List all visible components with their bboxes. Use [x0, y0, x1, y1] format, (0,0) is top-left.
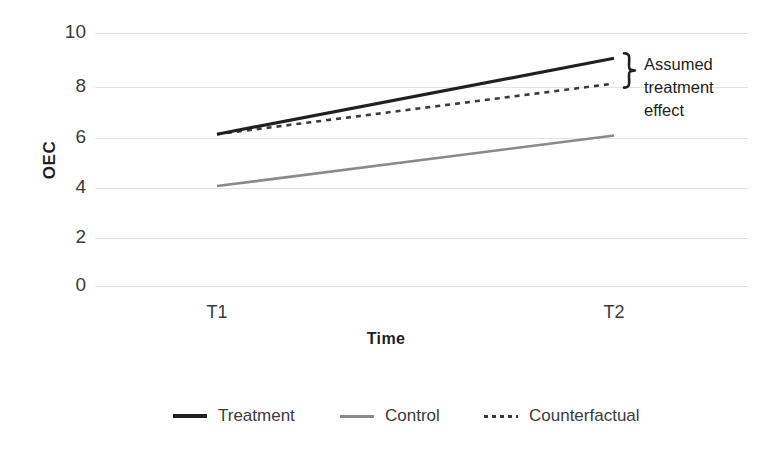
- annotation-line-2: treatment: [644, 76, 754, 99]
- annotation-assumed-treatment-effect: Assumed treatment effect: [644, 53, 754, 121]
- legend-marker-control-icon: [340, 410, 374, 422]
- curly-brace-icon: [624, 53, 635, 87]
- gridline-2: [95, 238, 748, 239]
- y-tick-label-0: 0: [46, 275, 86, 294]
- chart-legend: Treatment Control Counterfactual: [0, 403, 772, 433]
- y-tick-label-8: 8: [46, 76, 86, 95]
- series-line-counterfactual: [217, 84, 614, 135]
- legend-label-control: Control: [385, 406, 440, 426]
- series-line-treatment: [217, 58, 614, 134]
- chart-figure: OEC 10 8 6 4 2 0 Assumed treatment effec…: [0, 0, 772, 453]
- series-line-control: [217, 135, 614, 186]
- legend-item-treatment[interactable]: Treatment: [173, 403, 295, 429]
- y-tick-label-4: 4: [46, 177, 86, 196]
- gridline-4: [95, 188, 748, 189]
- x-tick-label-t2: T2: [574, 302, 654, 323]
- legend-label-counterfactual: Counterfactual: [529, 406, 640, 426]
- gridline-0: [95, 286, 748, 287]
- legend-marker-treatment-icon: [173, 410, 207, 422]
- x-axis-title: Time: [0, 330, 772, 348]
- annotation-line-1: Assumed: [644, 53, 754, 76]
- legend-marker-counterfactual-icon: [484, 410, 518, 422]
- y-tick-label-10: 10: [46, 22, 86, 41]
- legend-item-control[interactable]: Control: [340, 403, 440, 429]
- annotation-line-3: effect: [644, 99, 754, 122]
- gridline-6: [95, 138, 748, 139]
- gridline-10: [95, 33, 748, 34]
- x-tick-label-t1: T1: [177, 302, 257, 323]
- y-tick-label-2: 2: [46, 227, 86, 246]
- legend-label-treatment: Treatment: [218, 406, 295, 426]
- legend-item-counterfactual[interactable]: Counterfactual: [484, 403, 640, 429]
- y-tick-label-6: 6: [46, 127, 86, 146]
